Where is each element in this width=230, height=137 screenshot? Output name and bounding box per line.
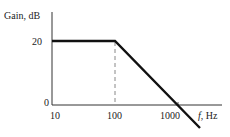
x-tick-label-10: 10 (50, 110, 60, 121)
y-tick-label-0: 0 (44, 97, 49, 108)
x-tick-label-1000: 1000 (160, 110, 180, 121)
gain-chart: Gain, dB 20 0 10 100 1000 f, Hz (0, 0, 230, 137)
x-tick-label-100: 100 (107, 110, 122, 121)
x-axis-label: f, Hz (198, 110, 218, 121)
y-tick-label-20: 20 (32, 36, 42, 47)
y-axis-label: Gain, dB (4, 10, 40, 21)
x-axis-label-unit: , Hz (201, 110, 218, 121)
